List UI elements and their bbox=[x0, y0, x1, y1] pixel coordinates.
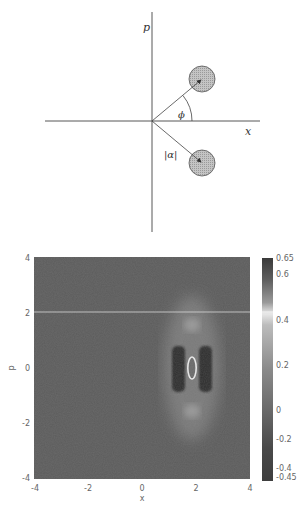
svg-text:0: 0 bbox=[25, 364, 30, 373]
svg-text:-4: -4 bbox=[31, 484, 39, 493]
phase-space-diagram: p x ϕ |α| bbox=[45, 12, 260, 232]
phi-angle-label: ϕ bbox=[178, 109, 185, 120]
colorbar: 0.65 0.6 0.4 0.2 0 -0.2 -0.4 -0.45 bbox=[262, 254, 297, 482]
heatmap-area bbox=[34, 257, 250, 479]
y-tick-labels: 4 2 0 -2 -4 bbox=[22, 254, 30, 483]
svg-text:-0.2: -0.2 bbox=[276, 435, 292, 444]
svg-text:-0.4: -0.4 bbox=[276, 464, 292, 473]
y-axis-title: p bbox=[7, 365, 16, 370]
svg-text:-4: -4 bbox=[22, 474, 30, 483]
svg-text:0: 0 bbox=[276, 406, 281, 415]
x-axis-title: x bbox=[140, 494, 145, 503]
svg-text:0: 0 bbox=[139, 484, 144, 493]
svg-text:2: 2 bbox=[25, 309, 30, 318]
upper-coherent-state-circle bbox=[189, 66, 215, 92]
svg-text:4: 4 bbox=[247, 484, 252, 493]
svg-text:0.2: 0.2 bbox=[276, 361, 289, 370]
svg-text:0.4: 0.4 bbox=[276, 316, 289, 325]
wigner-heatmap: 4 2 0 -2 -4 -4 -2 0 2 4 x p 0.65 0.6 0.4… bbox=[7, 254, 297, 503]
svg-text:2: 2 bbox=[193, 484, 198, 493]
x-tick-labels: -4 -2 0 2 4 bbox=[31, 484, 253, 493]
svg-text:-2: -2 bbox=[22, 419, 30, 428]
svg-text:4: 4 bbox=[25, 254, 30, 263]
upper-arrow bbox=[152, 80, 201, 121]
x-axis-label: x bbox=[245, 125, 252, 138]
figure: p x ϕ |α| 4 2 0 -2 bbox=[0, 0, 308, 519]
lower-coherent-state-circle bbox=[189, 150, 215, 176]
svg-text:-2: -2 bbox=[84, 484, 92, 493]
svg-text:0.6: 0.6 bbox=[276, 270, 289, 279]
p-axis-label: p bbox=[143, 21, 150, 34]
svg-text:-0.45: -0.45 bbox=[276, 473, 297, 482]
svg-text:0.65: 0.65 bbox=[276, 254, 294, 263]
alpha-magnitude-label: |α| bbox=[164, 149, 178, 161]
